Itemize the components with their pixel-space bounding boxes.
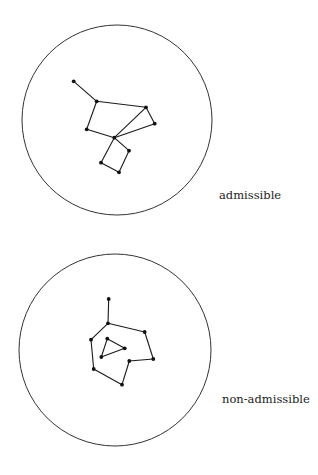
graph-edge xyxy=(91,340,94,369)
graph-node xyxy=(143,330,147,334)
graph-node xyxy=(120,383,124,387)
graph-edge xyxy=(129,359,153,361)
graph-edge xyxy=(114,124,154,138)
graph-node xyxy=(89,338,93,342)
graph-node xyxy=(85,127,89,131)
graph-node xyxy=(106,321,110,325)
graph-node xyxy=(117,170,121,174)
graph-edge xyxy=(97,101,146,107)
graph-edges xyxy=(74,81,155,172)
graph-nodes xyxy=(72,79,157,174)
boundary-circle xyxy=(19,254,211,446)
graph-edge xyxy=(101,138,114,163)
non-admissible-figure xyxy=(19,254,211,446)
graph-node xyxy=(151,357,155,361)
graph-edge xyxy=(107,339,124,349)
admissible-figure xyxy=(22,25,212,215)
graph-edge xyxy=(87,129,115,137)
graph-node xyxy=(72,79,76,83)
graph-edge xyxy=(146,107,155,123)
graph-edge xyxy=(145,332,154,359)
boundary-circle xyxy=(22,25,212,215)
graph-edge xyxy=(108,323,145,332)
graph-edge xyxy=(119,151,129,173)
graph-edge xyxy=(94,369,122,385)
graph-edge xyxy=(74,81,97,101)
non-admissible-label: non-admissible xyxy=(222,392,310,406)
graph-node xyxy=(144,105,148,109)
admissible-label: admissible xyxy=(219,188,281,202)
graph-edge xyxy=(87,101,97,129)
graph-node xyxy=(127,359,131,363)
graph-edge xyxy=(91,323,108,339)
graph-node xyxy=(112,136,116,140)
graph-node xyxy=(99,355,103,359)
graph-edge xyxy=(101,339,107,357)
graph-edge xyxy=(101,163,119,173)
graph-node xyxy=(153,122,157,126)
graph-node xyxy=(95,99,99,103)
graph-edge xyxy=(108,299,109,323)
graph-edge xyxy=(101,348,124,357)
graph-node xyxy=(123,346,127,350)
graph-edge xyxy=(114,107,146,137)
graph-node xyxy=(107,297,111,301)
graph-node xyxy=(127,149,131,153)
graph-node xyxy=(92,367,96,371)
graph-node xyxy=(105,337,109,341)
graph-edge xyxy=(122,361,129,385)
graph-nodes xyxy=(89,297,155,387)
graph-edge xyxy=(114,138,129,151)
graph-edges xyxy=(91,299,153,385)
graph-node xyxy=(99,161,103,165)
